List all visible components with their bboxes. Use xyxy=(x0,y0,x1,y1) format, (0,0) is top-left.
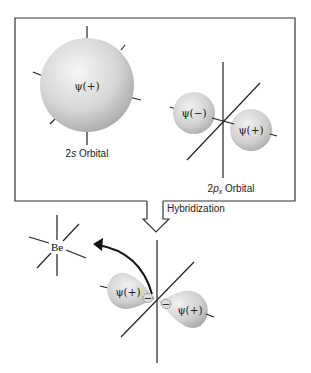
be-atom: Be xyxy=(29,215,86,276)
minor-lobe-left: − xyxy=(144,292,153,304)
p-orbital: ψ(−) ψ(+) 2px Orbital xyxy=(170,62,277,195)
p-orbital-negative-lobe: ψ(−) xyxy=(181,107,206,119)
hybridization-label: Hybridization xyxy=(167,203,225,214)
hybridization-arrow xyxy=(143,201,169,232)
be-atom-label: Be xyxy=(51,241,63,253)
sp-hybrid-orbital: − − ψ(+) ψ(+) xyxy=(100,240,214,363)
hybrid-lobe-right: ψ(+) xyxy=(177,304,202,316)
hybrid-lobe-left: ψ(+) xyxy=(115,286,140,298)
p-orbital-positive-lobe: ψ(+) xyxy=(238,124,263,136)
s-orbital: ψ(+) 2s Orbital xyxy=(33,26,141,159)
hybridization-diagram: ψ(+) 2s Orbital ψ(−) ψ(+) 2px Orbital Hy… xyxy=(0,0,311,373)
s-orbital-label: 2s Orbital xyxy=(66,148,109,159)
minor-lobe-right: − xyxy=(162,298,171,310)
s-orbital-sign: ψ(+) xyxy=(74,80,99,92)
p-orbital-label: 2px Orbital xyxy=(208,183,255,195)
